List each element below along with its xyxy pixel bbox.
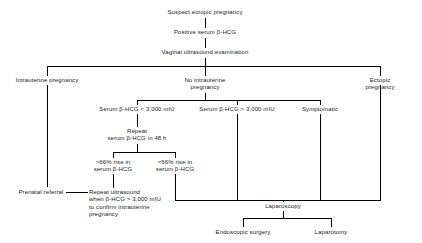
node-endoscopic-surgery: Endoscopic surgery — [216, 229, 271, 236]
edge-bus-to-endoscopic — [243, 218, 244, 227]
node-symptomatic: Symptomatic — [302, 106, 338, 113]
edge-prenatal-to-repeat-ultrasound — [66, 192, 88, 193]
edge-ultrasound-bus — [47, 66, 381, 67]
node-suspect-ectopic-pregnancy: Suspect ectopic pregnancy — [167, 9, 242, 16]
edge-intrauterine-to-prenatal — [47, 85, 48, 187]
node-rise-under-66-percent: <66% rise in serum β-HCG — [156, 159, 194, 174]
edge-ultrasound-stem — [205, 58, 206, 66]
edge-bus-to-symptomatic — [320, 100, 321, 105]
edge-rise-bus — [113, 152, 176, 153]
node-laparotomy: Laparotomy — [315, 229, 348, 236]
node-rise-over-66-percent: >66% rise in serum β-HCG — [94, 159, 132, 174]
edge-laparoscopy-stem — [283, 211, 284, 218]
edge-bus-to-intrauterine — [47, 66, 48, 76]
edge-bus-to-laparotomy — [331, 218, 332, 227]
edge-low-hcg-to-repeat — [137, 114, 138, 127]
node-positive-serum-hcg: Positive serum β-HCG — [174, 29, 236, 36]
edge-bottom-bus-to-laparoscopy — [283, 200, 284, 202]
flowchart-diagram: Suspect ectopic pregnancy Positive serum… — [0, 0, 422, 243]
node-no-intrauterine-pregnancy: No intrauterine pregnancy — [184, 77, 225, 92]
node-intrauterine-pregnancy: Intrauterine pregnancy — [16, 77, 79, 84]
node-serum-hcg-above-3000: Serum β-HCG > 3,000 mIU — [199, 106, 274, 113]
edge-symptomatic-to-bottom-bus — [320, 114, 321, 200]
edge-bus-to-low-hcg — [137, 100, 138, 105]
edge-positive-to-ultrasound — [205, 38, 206, 48]
edge-bus-to-rise-over — [113, 152, 114, 158]
edge-ectopic-to-bottom-bus — [380, 85, 381, 200]
edge-laparoscopy-bus — [243, 218, 331, 219]
edge-bottom-bus — [175, 200, 381, 201]
node-prenatal-referral: Prenatal referral — [18, 189, 63, 196]
edge-high-hcg-to-bottom-bus — [237, 114, 238, 200]
edge-bus-to-ectopic — [380, 66, 381, 76]
node-serum-hcg-below-3000: Serum β-HCG < 3,000 mIU — [99, 106, 174, 113]
edge-rise-over-to-repeat-ultrasound — [113, 174, 114, 188]
edge-rise-under-to-bottom-bus — [175, 174, 176, 200]
node-vaginal-ultrasound-examination: Vaginal ultrasound examination — [162, 49, 249, 56]
edge-bus-to-rise-under — [175, 152, 176, 158]
edge-no-iup-stem — [205, 93, 206, 100]
edge-bus-to-high-hcg — [237, 100, 238, 105]
edge-repeat-stem — [137, 144, 138, 152]
node-repeat-serum-hcg-48h: Repeat serum β-HCG in 48 h — [107, 128, 166, 143]
edge-bus-to-no-intrauterine — [205, 66, 206, 76]
edge-no-iup-bus — [137, 100, 321, 101]
node-laparoscopy: Laparoscopy — [265, 203, 301, 210]
edge-suspect-to-positive — [205, 18, 206, 28]
node-repeat-ultrasound-confirm: Repeat ultrasound when β-HCG > 3,000 mIU… — [89, 189, 161, 219]
